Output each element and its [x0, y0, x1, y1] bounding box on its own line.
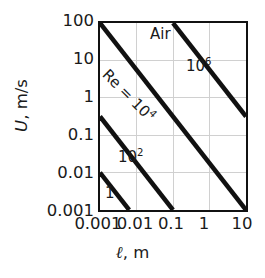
annotation-re-10-4-text: Re = 10 — [99, 66, 154, 121]
x-tick-label: 10 — [229, 216, 255, 233]
annotation-air: Air — [150, 27, 171, 42]
annotation-re-10-4: Re = 104 — [99, 67, 157, 125]
annotation-re-10-6: 106 — [186, 59, 212, 74]
x-axis-symbol: ℓ — [116, 243, 123, 262]
x-axis-tick-labels: 0.001 0.01 0.1 1 10 — [0, 216, 265, 242]
annotation-re-10-2-exponent: 2 — [137, 147, 143, 158]
annotation-re-1: 1 — [105, 186, 115, 201]
y-tick-label: 10 — [73, 51, 94, 68]
y-tick-label: 0.1 — [68, 127, 94, 144]
y-tick-label: 0.01 — [57, 165, 94, 182]
y-axis-title: U, m/s — [12, 66, 31, 146]
annotation-re-10-6-mantissa: 10 — [186, 57, 205, 75]
annotation-re-10-2-mantissa: 10 — [118, 148, 137, 166]
plot-area: Air 106 Re = 104 102 1 — [98, 21, 248, 212]
annotation-re-10-6-exponent: 6 — [205, 56, 211, 67]
y-tick-label: 1 — [84, 89, 95, 106]
x-axis-title: ℓ, m — [0, 243, 265, 263]
reynolds-number-chart: 100 10 1 0.1 0.01 0.001 U, m/s — [0, 0, 265, 278]
x-axis-units: , m — [123, 243, 150, 262]
x-tick-label: 0.1 — [152, 216, 190, 233]
plot-annotations: Air 106 Re = 104 102 1 — [100, 23, 246, 210]
y-axis-symbol: U — [12, 120, 31, 132]
annotation-re-10-2: 102 — [118, 150, 144, 165]
x-tick-label: 1 — [196, 216, 212, 233]
y-axis-units: , m/s — [12, 79, 31, 120]
y-tick-label: 100 — [63, 13, 95, 30]
